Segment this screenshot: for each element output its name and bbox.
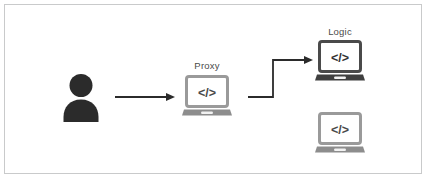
- logic-label: Logic: [311, 26, 369, 37]
- diagram-canvas: Proxy </> Logic </>: [0, 0, 428, 182]
- proxy-node: Proxy </>: [178, 60, 236, 118]
- laptop-icon: </>: [182, 75, 232, 117]
- logic-screen-code-text: </>: [331, 51, 349, 65]
- backend-secondary-screen-code-text: </>: [331, 123, 349, 137]
- logic-node: Logic </>: [311, 26, 369, 84]
- person-icon: [58, 72, 104, 122]
- user-node: [58, 72, 104, 122]
- laptop-icon: </>: [315, 112, 365, 154]
- proxy-screen-code-text: </>: [198, 86, 216, 100]
- proxy-label: Proxy: [178, 60, 236, 71]
- backend-secondary-node: </>: [311, 110, 369, 156]
- laptop-icon: </>: [315, 40, 365, 82]
- backend-secondary-laptop-icon: </>: [315, 112, 365, 154]
- logic-laptop-icon: </>: [315, 40, 365, 82]
- proxy-laptop-icon: </>: [182, 75, 232, 117]
